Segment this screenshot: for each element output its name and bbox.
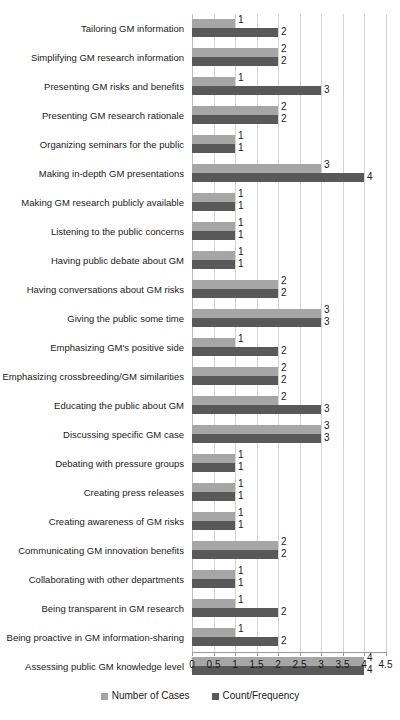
bar-count-frequency (192, 637, 278, 646)
bar-number-of-cases (192, 367, 278, 376)
bar-count-frequency (192, 318, 321, 327)
x-tick-label: 3.5 (336, 659, 350, 671)
data-label-count-frequency: 4 (367, 172, 373, 182)
bar-count-frequency (192, 260, 235, 269)
bar-row: 11 (192, 246, 386, 275)
data-label-number-of-cases: 1 (238, 334, 244, 344)
category-label: Creating press releases (0, 487, 188, 498)
data-label-count-frequency: 2 (281, 346, 287, 356)
bar-row: 12 (192, 594, 386, 623)
bar-row: 11 (192, 449, 386, 478)
x-tick-label: 4.5 (379, 659, 393, 671)
bar-number-of-cases (192, 628, 235, 637)
bar-number-of-cases (192, 570, 235, 579)
bar-number-of-cases (192, 106, 278, 115)
data-label-number-of-cases: 1 (238, 189, 244, 199)
category-label: Assessing public GM knowledge level (0, 661, 188, 672)
x-tick-label: 2 (275, 659, 281, 671)
x-tick-label: 0.5 (207, 659, 221, 671)
bar-count-frequency (192, 405, 321, 414)
data-label-count-frequency: 1 (238, 259, 244, 269)
bar-row: 33 (192, 420, 386, 449)
bar-row: 34 (192, 159, 386, 188)
bar-count-frequency (192, 289, 278, 298)
data-label-count-frequency: 3 (324, 404, 330, 414)
x-tick (364, 652, 365, 656)
data-label-count-frequency: 1 (238, 230, 244, 240)
bar-row: 22 (192, 43, 386, 72)
data-label-number-of-cases: 1 (238, 131, 244, 141)
x-tick-label: 0 (189, 659, 195, 671)
category-label: Giving the public some time (0, 313, 188, 324)
x-tick-label: 2.5 (293, 659, 307, 671)
data-label-number-of-cases: 3 (324, 160, 330, 170)
bar-count-frequency (192, 608, 278, 617)
x-axis-tick-labels: 00.511.522.533.544.5 (192, 659, 386, 673)
legend-item[interactable]: Number of Cases (101, 690, 190, 702)
bar-number-of-cases (192, 309, 321, 318)
data-label-number-of-cases: 1 (238, 566, 244, 576)
legend-label: Number of Cases (112, 690, 190, 702)
x-tick (321, 652, 322, 656)
bar-count-frequency (192, 144, 235, 153)
data-label-number-of-cases: 2 (281, 276, 287, 286)
bar-number-of-cases (192, 454, 235, 463)
category-label: Organizing seminars for the public (0, 139, 188, 150)
data-label-count-frequency: 2 (281, 636, 287, 646)
bar-row: 12 (192, 14, 386, 43)
bar-count-frequency (192, 28, 278, 37)
category-label: Emphasizing crossbreeding/GM similaritie… (0, 371, 188, 382)
bar-count-frequency (192, 231, 235, 240)
x-tick (300, 652, 301, 656)
x-tick (386, 652, 387, 656)
bar-row: 22 (192, 275, 386, 304)
bar-row: 12 (192, 623, 386, 652)
data-label-count-frequency: 1 (238, 491, 244, 501)
category-label: Educating the public about GM (0, 400, 188, 411)
legend-swatch-icon (101, 693, 108, 700)
bar-count-frequency (192, 463, 235, 472)
bar-count-frequency (192, 347, 278, 356)
bar-number-of-cases (192, 425, 321, 434)
bar-row: 11 (192, 130, 386, 159)
bar-count-frequency (192, 202, 235, 211)
bar-number-of-cases (192, 280, 278, 289)
bar-row: 13 (192, 72, 386, 101)
bar-number-of-cases (192, 512, 235, 521)
x-tick (343, 652, 344, 656)
horizontal-bar-chart: Tailoring GM informationSimplifying GM r… (0, 0, 400, 720)
data-label-count-frequency: 2 (281, 27, 287, 37)
data-label-number-of-cases: 2 (281, 102, 287, 112)
data-label-number-of-cases: 3 (324, 305, 330, 315)
bar-number-of-cases (192, 48, 278, 57)
category-label: Presenting GM risks and benefits (0, 81, 188, 92)
data-label-count-frequency: 2 (281, 56, 287, 66)
bar-rows: 1222132211341111112233122223331111112211… (192, 14, 386, 652)
bar-count-frequency (192, 492, 235, 501)
x-tick-label: 1 (232, 659, 238, 671)
data-label-count-frequency: 3 (324, 85, 330, 95)
bar-number-of-cases (192, 251, 235, 260)
data-label-number-of-cases: 2 (281, 363, 287, 373)
bar-count-frequency (192, 57, 278, 66)
bar-count-frequency (192, 115, 278, 124)
category-label: Tailoring GM information (0, 23, 188, 34)
x-tick (257, 652, 258, 656)
bar-count-frequency (192, 521, 235, 530)
bar-number-of-cases (192, 338, 235, 347)
bar-number-of-cases (192, 541, 278, 550)
category-label: Being transparent in GM research (0, 603, 188, 614)
legend-item[interactable]: Count/Frequency (212, 690, 300, 702)
data-label-count-frequency: 1 (238, 201, 244, 211)
data-label-number-of-cases: 1 (238, 247, 244, 257)
x-tick-label: 4 (361, 659, 367, 671)
bar-count-frequency (192, 434, 321, 443)
bar-row: 11 (192, 188, 386, 217)
legend-swatch-icon (212, 693, 219, 700)
category-label: Communicating GM innovation benefits (0, 545, 188, 556)
data-label-number-of-cases: 1 (238, 508, 244, 518)
bar-number-of-cases (192, 396, 278, 405)
category-label: Making in-depth GM presentations (0, 168, 188, 179)
bar-count-frequency (192, 376, 278, 385)
data-label-number-of-cases: 2 (281, 537, 287, 547)
